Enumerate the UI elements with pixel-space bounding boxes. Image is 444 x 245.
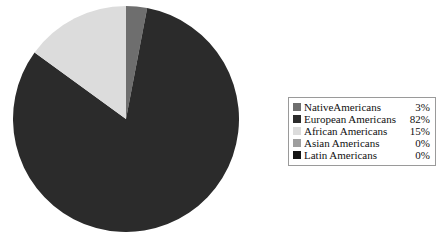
pie-chart-plot-area [13, 6, 239, 232]
pie-chart-figure: NativeAmericans 3% European Americans 82… [0, 0, 444, 245]
chart-legend: NativeAmericans 3% European Americans 82… [288, 97, 436, 166]
legend-value-african-americans: 15% [410, 125, 430, 137]
legend-swatch-icon-latin-americans [293, 151, 301, 159]
legend-label-asian-americans: Asian Americans [304, 137, 411, 149]
legend-swatch-icon-native-americans [293, 103, 301, 111]
legend-label-african-americans: African Americans [304, 125, 406, 137]
legend-item-european-americans: European Americans 82% [293, 113, 430, 125]
legend-swatch-icon-asian-americans [293, 139, 301, 147]
legend-value-european-americans: 82% [410, 113, 430, 125]
legend-value-latin-americans: 0% [415, 149, 430, 161]
legend-label-latin-americans: Latin Americans [304, 149, 411, 161]
pie-slice-group [13, 6, 239, 232]
legend-value-native-americans: 3% [415, 101, 430, 113]
legend-item-latin-americans: Latin Americans 0% [293, 149, 430, 161]
legend-label-european-americans: European Americans [304, 113, 406, 125]
legend-label-native-americans: NativeAmericans [304, 101, 411, 113]
pie-chart-svg [13, 6, 239, 232]
legend-item-african-americans: African Americans 15% [293, 125, 430, 137]
legend-item-asian-americans: Asian Americans 0% [293, 137, 430, 149]
legend-value-asian-americans: 0% [415, 137, 430, 149]
legend-swatch-icon-african-americans [293, 127, 301, 135]
legend-item-native-americans: NativeAmericans 3% [293, 101, 430, 113]
legend-swatch-icon-european-americans [293, 115, 301, 123]
